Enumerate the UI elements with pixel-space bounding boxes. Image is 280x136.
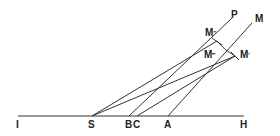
- label-M: M: [255, 14, 263, 24]
- line-S-Msingle: [92, 56, 235, 116]
- label-A: A: [164, 120, 171, 130]
- label-S: S: [88, 120, 95, 130]
- geometry-diagram: [0, 0, 280, 136]
- label-P: P: [231, 10, 238, 20]
- label-M-triple-mark: ‴: [212, 52, 215, 58]
- label-M-single-mark: ′: [248, 52, 249, 58]
- label-M-double-mark: ″: [213, 30, 216, 36]
- label-B: B: [125, 120, 132, 130]
- label-M-double-prime: M″: [205, 28, 216, 38]
- tick-Mdouble: [212, 38, 222, 45]
- label-M-single-prime: M′: [240, 50, 250, 60]
- line-C-Msingle: [137, 56, 235, 116]
- label-H: H: [240, 120, 247, 130]
- tick-Msingle: [231, 52, 239, 60]
- label-M-triple-prime: M‴: [204, 50, 215, 60]
- label-I: I: [16, 120, 19, 130]
- label-C: C: [133, 120, 140, 130]
